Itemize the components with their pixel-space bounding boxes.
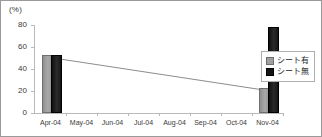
legend-item: シート有 [266,56,309,66]
y-axis-tick-label: 40 [5,65,27,73]
x-axis-tick [252,113,253,116]
y-axis-unit-label: (%) [9,5,22,14]
y-axis-tick-label: 0 [5,109,27,117]
chart-legend: シート有シート無 [261,51,315,82]
x-axis-tick [159,113,160,116]
y-axis-tick [31,113,35,114]
legend-swatch-icon [266,68,274,76]
y-axis-tick-label: 60 [5,43,27,51]
bar-apr-04-series1 [51,55,62,113]
trend-line [35,25,283,113]
chart-figure: (%) 020406080 Apr-04May-04Jun-04Jul-04Au… [0,0,322,137]
x-axis-tick [128,113,129,116]
legend-item: シート無 [266,67,309,77]
legend-label: シート無 [277,68,309,76]
x-axis-tick-label: Nov-04 [248,119,288,127]
x-axis-tick [66,113,67,116]
x-axis-tick [190,113,191,116]
y-axis-tick-label: 80 [5,21,27,29]
legend-swatch-icon [266,57,274,65]
y-axis-tick-label: 20 [5,87,27,95]
x-axis-tick [221,113,222,116]
plot-area [35,25,283,113]
legend-label: シート有 [277,57,309,65]
x-axis-tick [283,113,284,116]
x-axis-tick [97,113,98,116]
